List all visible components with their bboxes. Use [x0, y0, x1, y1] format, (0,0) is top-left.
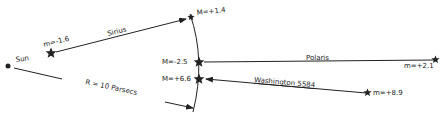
sirius-star-icon — [46, 48, 57, 58]
polaris-absolute: M=-2.5 — [162, 58, 188, 66]
washington-name: Washington 5584 — [254, 76, 316, 89]
radius-arrow — [165, 102, 193, 108]
polaris-apparent: m=+2.1 — [404, 62, 434, 70]
radius-label: R = 10 Parsecs — [85, 78, 139, 97]
sirius-apparent: m=-1.6 — [43, 35, 71, 49]
washington-star-icon — [363, 88, 371, 96]
sirius-10pc-star-icon — [187, 13, 194, 20]
washington-absolute: M=+6.6 — [162, 75, 191, 83]
washington-10pc-star-icon — [194, 74, 205, 84]
washington-apparent: m=+8.9 — [373, 89, 403, 97]
radius-line — [14, 68, 62, 79]
polaris-name: Polaris — [306, 54, 329, 62]
magnitude-diagram: Sun R = 10 Parsecs m=-1.6 Sirius M=+1.4 … — [0, 0, 444, 119]
sirius-line — [56, 19, 186, 52]
sun-dot — [6, 64, 11, 69]
sun-label: Sun — [15, 54, 29, 64]
sirius-absolute: M=+1.4 — [196, 6, 226, 17]
